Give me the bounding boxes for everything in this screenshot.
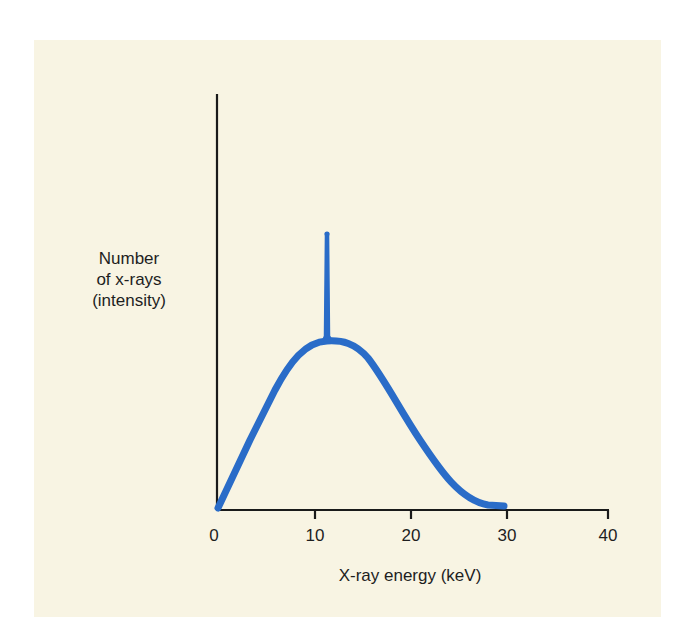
y-axis-label: Number of x-rays (intensity) <box>64 248 194 311</box>
y-axis-label-line-3: (intensity) <box>64 290 194 311</box>
x-tick-label-20: 20 <box>402 526 421 545</box>
characteristic-spike <box>322 233 333 342</box>
spectrum-chart: 0 10 20 30 40 <box>0 0 686 632</box>
continuum-curve <box>218 341 504 508</box>
y-axis-label-line-2: of x-rays <box>64 269 194 290</box>
x-tick-label-40: 40 <box>599 526 618 545</box>
spike-tip <box>325 232 330 237</box>
x-tick-label-30: 30 <box>498 526 517 545</box>
x-axis-label: X-ray energy (keV) <box>300 566 520 586</box>
y-axis-label-line-1: Number <box>64 248 194 269</box>
x-ticks <box>315 510 608 519</box>
x-tick-label-0: 0 <box>209 526 218 545</box>
x-tick-label-10: 10 <box>306 526 325 545</box>
